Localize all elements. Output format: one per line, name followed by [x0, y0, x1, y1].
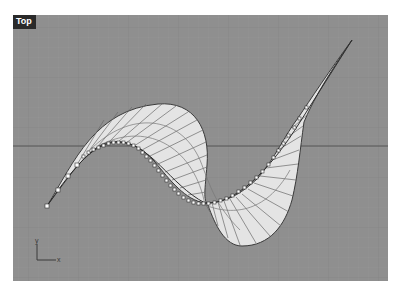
top-viewport[interactable]: Top — [13, 15, 388, 281]
viewport-title-tab[interactable]: Top — [13, 15, 36, 29]
axis-y-label: y — [35, 237, 39, 245]
viewport-canvas[interactable]: y x — [13, 15, 388, 281]
axis-x-label: x — [57, 256, 61, 263]
